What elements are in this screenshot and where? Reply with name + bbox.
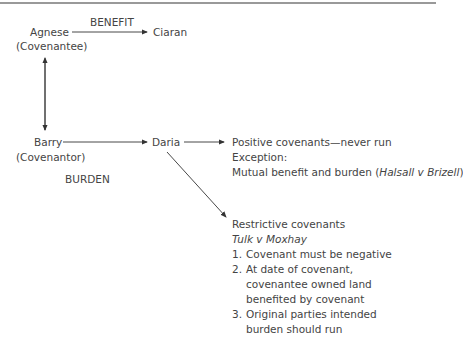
node-barry: Barry	[34, 135, 62, 149]
case-halsall-v-brizell: Halsall v Brizell	[379, 166, 459, 178]
benefit-label: BENEFIT	[90, 15, 134, 29]
positive-covenants-title: Positive covenants—never run	[232, 135, 392, 149]
restrictive-covenants-title: Restrictive covenants	[232, 217, 345, 231]
exception-text: Mutual benefit and burden (Halsall v Bri…	[232, 165, 463, 179]
node-ciaran: Ciaran	[153, 25, 187, 39]
burden-label: BURDEN	[65, 172, 110, 186]
conditions-list: 1. Covenant must be negative 2. At date …	[232, 247, 396, 337]
condition-item: 2. At date of covenant, covenantee owned…	[232, 262, 396, 307]
node-agnese-role: (Covenantee)	[16, 39, 87, 53]
condition-item: 1. Covenant must be negative	[232, 247, 396, 262]
exception-label: Exception:	[232, 150, 287, 164]
node-barry-role: (Covenantor)	[16, 150, 85, 164]
case-tulk-v-moxhay: Tulk v Moxhay	[232, 232, 307, 246]
node-agnese: Agnese	[30, 25, 69, 39]
condition-item: 3. Original parties intended burden shou…	[232, 307, 396, 337]
node-daria: Daria	[152, 135, 180, 149]
